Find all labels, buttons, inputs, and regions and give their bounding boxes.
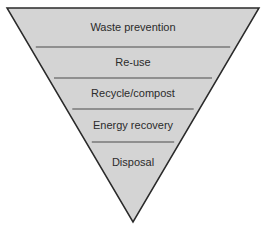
level-label-waste-prevention: Waste prevention — [90, 21, 175, 33]
level-label-energy-recovery: Energy recovery — [93, 119, 174, 131]
level-label-re-use: Re-use — [115, 56, 150, 68]
waste-hierarchy-diagram: Waste prevention Re-use Recycle/compost … — [0, 0, 267, 235]
level-label-recycle-compost: Recycle/compost — [91, 87, 175, 99]
pyramid-shape — [7, 8, 259, 222]
level-label-disposal: Disposal — [112, 156, 154, 168]
